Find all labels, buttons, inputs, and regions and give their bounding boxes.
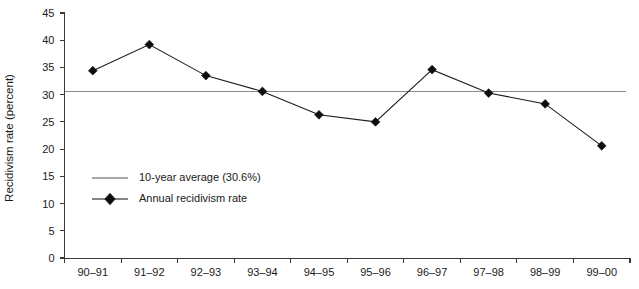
legend-label-average: 10-year average (30.6%) — [139, 171, 261, 183]
data-point-marker — [597, 141, 606, 150]
y-tick-label: 40 — [42, 34, 54, 46]
chart-canvas: Recidivism rate (percent) 05101520253035… — [0, 0, 639, 289]
y-axis-title: Recidivism rate (percent) — [3, 74, 15, 202]
y-axis: 051015202530354045 — [42, 7, 64, 264]
x-tick-label: 94–95 — [304, 266, 335, 278]
x-tick-label: 92–93 — [191, 266, 222, 278]
chart-legend: 10-year average (30.6%) Annual recidivis… — [92, 171, 261, 204]
legend-entry-series: Annual recidivism rate — [92, 192, 247, 204]
data-point-marker — [315, 110, 324, 119]
y-tick-label: 45 — [42, 7, 54, 19]
legend-label-series: Annual recidivism rate — [139, 192, 247, 204]
x-tick-label: 97–98 — [473, 266, 504, 278]
x-tick-label: 99–00 — [586, 266, 617, 278]
y-tick-label: 35 — [42, 61, 54, 73]
annual-recidivism-rate-line — [93, 45, 602, 146]
x-axis: 90–9191–9292–9393–9494–9595–9696–9797–98… — [65, 258, 631, 278]
plot-area — [65, 40, 627, 150]
y-tick-label: 5 — [48, 225, 54, 237]
data-point-marker — [145, 40, 154, 49]
y-tick-label: 25 — [42, 116, 54, 128]
y-tick-label: 30 — [42, 89, 54, 101]
data-point-marker-group — [88, 40, 606, 150]
y-axis-title-group: Recidivism rate (percent) — [3, 74, 15, 202]
recidivism-rate-chart: Recidivism rate (percent) 05101520253035… — [0, 0, 639, 289]
data-point-marker — [484, 89, 493, 98]
y-tick-label: 0 — [48, 252, 54, 264]
x-tick-label: 98–99 — [530, 266, 561, 278]
x-tick-label: 90–91 — [77, 266, 108, 278]
y-tick-label: 10 — [42, 198, 54, 210]
y-tick-group: 051015202530354045 — [42, 7, 64, 264]
x-tick-label: 91–92 — [134, 266, 165, 278]
x-tick-label: 95–96 — [360, 266, 391, 278]
legend-diamond-icon-series — [105, 193, 116, 205]
x-tick-label: 93–94 — [247, 266, 278, 278]
y-tick-label: 15 — [42, 170, 54, 182]
legend-entry-average: 10-year average (30.6%) — [92, 171, 261, 183]
data-point-marker — [201, 71, 210, 80]
data-point-marker — [88, 66, 97, 75]
data-point-marker — [541, 100, 550, 109]
x-tick-label: 96–97 — [417, 266, 448, 278]
y-tick-label: 20 — [42, 143, 54, 155]
x-tick-label-group: 90–9191–9292–9393–9494–9595–9696–9797–98… — [77, 266, 617, 278]
data-point-marker — [258, 87, 267, 96]
